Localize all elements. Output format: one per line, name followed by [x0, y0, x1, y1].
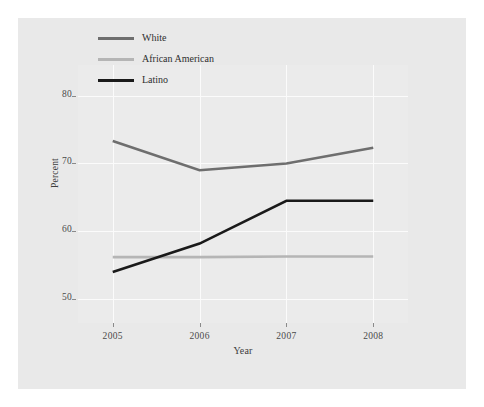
legend-item: White: [98, 32, 214, 44]
x-tick-mark: [113, 323, 114, 327]
x-axis-label: Year: [78, 345, 408, 356]
x-tick-label: 2008: [343, 331, 403, 341]
y-axis-label: Percent: [50, 128, 60, 218]
legend-swatch-icon: [98, 37, 134, 40]
x-tick-label: 2006: [170, 331, 230, 341]
legend-item: African American: [98, 53, 214, 65]
series-line: [113, 201, 374, 272]
y-tick-label: 80: [32, 89, 72, 99]
x-tick-label: 2005: [83, 331, 143, 341]
figure-container: 50607080 2005200620072008 Percent Year W…: [18, 18, 466, 389]
legend-swatch-icon: [98, 79, 134, 82]
y-tick-mark: [72, 299, 76, 300]
legend-item: Latino: [98, 74, 214, 86]
legend-swatch-icon: [98, 58, 134, 61]
legend-label: African American: [142, 53, 214, 65]
chart-svg: [78, 65, 408, 323]
series-line: [113, 256, 374, 257]
x-tick-mark: [200, 323, 201, 327]
series-line: [113, 141, 374, 170]
plot-area: [78, 65, 408, 323]
legend-label: Latino: [142, 74, 168, 86]
chart-legend: WhiteAfrican AmericanLatino: [98, 32, 214, 86]
legend-label: White: [142, 32, 166, 44]
y-tick-mark: [72, 163, 76, 164]
x-tick-mark: [373, 323, 374, 327]
y-tick-label: 60: [32, 224, 72, 234]
x-tick-label: 2007: [256, 331, 316, 341]
x-tick-mark: [286, 323, 287, 327]
y-tick-mark: [72, 231, 76, 232]
y-tick-label: 50: [32, 292, 72, 302]
y-tick-mark: [72, 96, 76, 97]
